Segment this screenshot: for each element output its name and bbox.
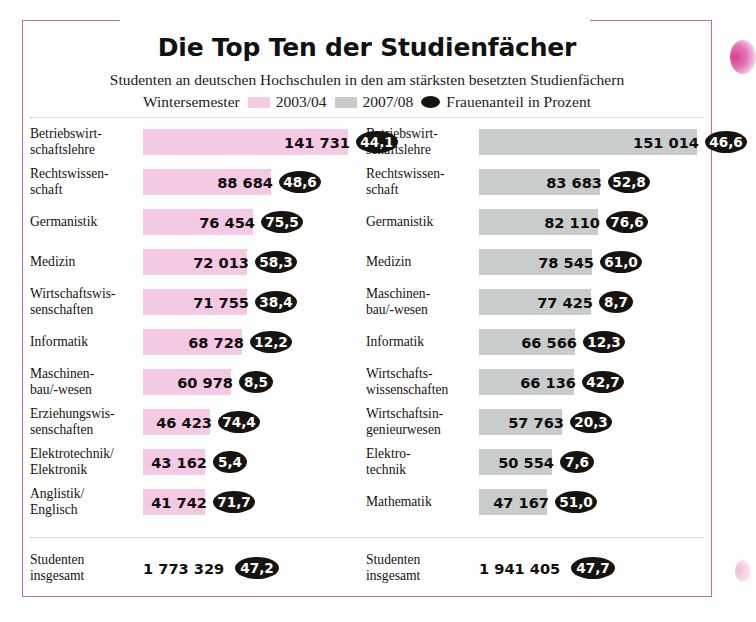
chart-row: Elektrotechnik/ Elektronik43 1625,4 xyxy=(30,442,370,482)
total-label: Studenten insgesamt xyxy=(30,552,142,584)
subject-label: Erziehungswis- senschaften xyxy=(30,406,142,438)
bar-area: 72 01358,3 xyxy=(143,249,373,275)
women-share-badge: 42,7 xyxy=(582,371,624,393)
value-label: 151 014 xyxy=(633,134,699,151)
subject-label: Informatik xyxy=(366,334,478,350)
chart-row: Medizin78 54561,0 xyxy=(366,242,706,282)
value-label: 66 136 xyxy=(520,374,576,391)
subject-label: Anglistik/ Englisch xyxy=(30,486,142,518)
chart-row: Wirtschaftswis- senschaften71 75538,4 xyxy=(30,282,370,322)
chart-row: Betriebswirt- schaftslehre151 01446,6 xyxy=(366,122,706,162)
subject-label: Informatik xyxy=(30,334,142,350)
value-label: 82 110 xyxy=(544,214,600,231)
subject-label: Maschinen- bau/-wesen xyxy=(30,366,142,398)
total-row-2003: Studenten insgesamt 1 773 329 47,2 xyxy=(30,546,370,590)
value-label: 76 454 xyxy=(199,214,255,231)
women-share-badge: 20,3 xyxy=(570,411,612,433)
subject-label: Germanistik xyxy=(30,214,142,230)
subject-label: Wirtschaftsin- genieurwesen xyxy=(366,406,478,438)
value-label: 47 167 xyxy=(493,494,549,511)
bar-area: 50 5547,6 xyxy=(479,449,709,475)
total-women-share: 47,2 xyxy=(235,557,279,579)
subject-label: Betriebswirt- schaftslehre xyxy=(30,126,142,158)
bar-area: 60 9788,5 xyxy=(143,369,373,395)
subject-label: Mathematik xyxy=(366,494,478,510)
subject-label: Elektrotechnik/ Elektronik xyxy=(30,446,142,478)
value-label: 83 683 xyxy=(546,174,602,191)
total-row-2007: Studenten insgesamt 1 941 405 47,7 xyxy=(366,546,706,590)
women-share-badge: 46,6 xyxy=(705,131,747,153)
chart-row: Rechtswissen- schaft83 68352,8 xyxy=(366,162,706,202)
value-label: 141 731 xyxy=(284,134,350,151)
women-share-badge: 58,3 xyxy=(255,251,297,273)
bar-area: 66 56612,3 xyxy=(479,329,709,355)
chart-row: Mathematik47 16751,0 xyxy=(366,482,706,522)
bar-area: 82 11076,6 xyxy=(479,209,709,235)
bar-area: 76 45475,5 xyxy=(143,209,373,235)
chart-row: Betriebswirt- schaftslehre141 73144,1 xyxy=(30,122,370,162)
bar-area: 78 54561,0 xyxy=(479,249,709,275)
women-share-badge: 5,4 xyxy=(213,451,247,473)
bar-area: 151 01446,6 xyxy=(479,129,709,155)
women-share-badge: 8,7 xyxy=(599,291,633,313)
women-share-badge: 51,0 xyxy=(555,491,597,513)
subject-label: Betriebswirt- schaftslehre xyxy=(366,126,478,158)
women-share-badge: 48,6 xyxy=(279,171,321,193)
bar-area: 57 76320,3 xyxy=(479,409,709,435)
women-share-badge: 71,7 xyxy=(213,491,255,513)
chart-row: Wirtschaftsin- genieurwesen57 76320,3 xyxy=(366,402,706,442)
bar-area: 68 72812,2 xyxy=(143,329,373,355)
women-share-badge: 76,6 xyxy=(606,211,648,233)
value-label: 43 162 xyxy=(151,454,207,471)
women-share-badge: 74,4 xyxy=(218,411,260,433)
chart-row: Elektro- technik50 5547,6 xyxy=(366,442,706,482)
total-value: 1 773 329 xyxy=(143,560,224,577)
total-label: Studenten insgesamt xyxy=(366,552,478,584)
women-share-badge: 38,4 xyxy=(255,291,297,313)
chart-row: Anglistik/ Englisch41 74271,7 xyxy=(30,482,370,522)
subject-label: Germanistik xyxy=(366,214,478,230)
chart-row: Rechtswissen- schaft88 68448,6 xyxy=(30,162,370,202)
chart-row: Germanistik76 45475,5 xyxy=(30,202,370,242)
value-label: 66 566 xyxy=(521,334,577,351)
subject-label: Rechtswissen- schaft xyxy=(366,166,478,198)
bar-area: 47 16751,0 xyxy=(479,489,709,515)
value-label: 46 423 xyxy=(156,414,212,431)
chart-row: Maschinen- bau/-wesen60 9788,5 xyxy=(30,362,370,402)
chart-row: Informatik66 56612,3 xyxy=(366,322,706,362)
bar-area: 41 74271,7 xyxy=(143,489,373,515)
value-label: 78 545 xyxy=(538,254,594,271)
value-label: 60 978 xyxy=(177,374,233,391)
women-share-badge: 8,5 xyxy=(239,371,273,393)
chart-row: Germanistik82 11076,6 xyxy=(366,202,706,242)
value-label: 88 684 xyxy=(217,174,273,191)
value-label: 50 554 xyxy=(498,454,554,471)
value-label: 72 013 xyxy=(193,254,249,271)
subject-label: Elektro- technik xyxy=(366,446,478,478)
total-value: 1 941 405 xyxy=(479,560,560,577)
subject-label: Medizin xyxy=(30,254,142,270)
chart-row: Erziehungswis- senschaften46 42374,4 xyxy=(30,402,370,442)
subject-label: Rechtswissen- schaft xyxy=(30,166,142,198)
bar-area: 88 68448,6 xyxy=(143,169,373,195)
women-share-badge: 7,6 xyxy=(560,451,594,473)
women-share-badge: 12,3 xyxy=(583,331,625,353)
chart-row: Informatik68 72812,2 xyxy=(30,322,370,362)
column-2007: Betriebswirt- schaftslehre151 01446,6Rec… xyxy=(366,122,706,522)
bar-area: 71 75538,4 xyxy=(143,289,373,315)
women-share-badge: 75,5 xyxy=(261,211,303,233)
value-label: 77 425 xyxy=(537,294,593,311)
subject-label: Wirtschafts- wissenschaften xyxy=(366,366,478,398)
value-label: 57 763 xyxy=(508,414,564,431)
bar-area: 83 68352,8 xyxy=(479,169,709,195)
bar-area: 77 4258,7 xyxy=(479,289,709,315)
chart-row: Maschinen- bau/-wesen77 4258,7 xyxy=(366,282,706,322)
bar-area: 66 13642,7 xyxy=(479,369,709,395)
bar-area: 43 1625,4 xyxy=(143,449,373,475)
women-share-badge: 61,0 xyxy=(600,251,642,273)
bar-area: 141 73144,1 xyxy=(143,129,373,155)
column-2003: Betriebswirt- schaftslehre141 73144,1Rec… xyxy=(30,122,370,522)
subject-label: Medizin xyxy=(366,254,478,270)
women-share-badge: 12,2 xyxy=(250,331,292,353)
